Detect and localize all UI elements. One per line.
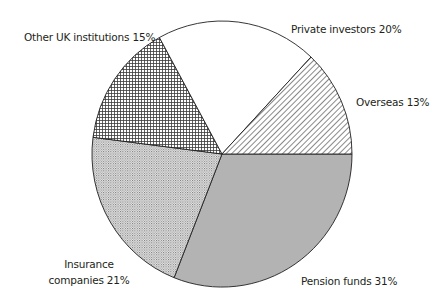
label-overseas: Overseas 13% [356,96,430,108]
label-insurance-line2: companies 21% [48,274,129,286]
label-other-uk-institutions: Other UK institutions 15% [24,31,155,43]
label-insurance-line1: Insurance [64,258,114,270]
label-pension-funds: Pension funds 31% [301,275,398,287]
label-private-investors: Private investors 20% [291,23,402,35]
pie-chart: Other UK institutions 15% Private invest… [0,0,442,303]
